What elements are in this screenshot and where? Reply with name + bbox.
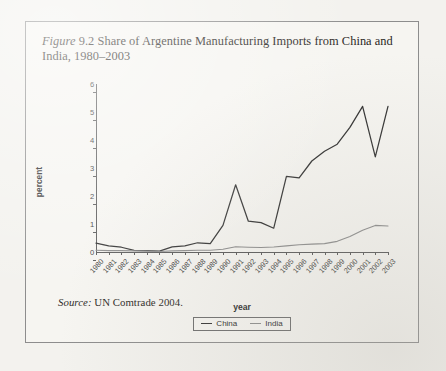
x-tick-mark [299, 252, 300, 255]
source-text: UN Comtrade 2004. [92, 296, 183, 308]
x-tick-mark [198, 252, 199, 255]
x-tick-mark [363, 252, 364, 255]
x-axis [96, 252, 388, 253]
x-tick-mark [286, 252, 287, 255]
scanned-page: Figure 9.2 Share of Argentine Manufactur… [0, 0, 446, 371]
y-axis-title: percent [34, 167, 44, 197]
x-tick-mark [134, 252, 135, 255]
plot-area [96, 84, 388, 252]
x-tick-mark [159, 252, 160, 255]
legend-item-china: China [201, 319, 237, 328]
caption-text: 9.2 Share of Argentine Manufacturing Imp… [42, 34, 393, 63]
series-lines [96, 84, 388, 252]
x-tick-mark [274, 252, 275, 255]
x-tick-mark [325, 252, 326, 255]
chart-legend: China India [96, 317, 388, 331]
legend-label-india: India [265, 319, 282, 328]
x-tick-mark [147, 252, 148, 255]
x-tick-mark [236, 252, 237, 255]
x-tick-mark [248, 252, 249, 255]
x-tick-mark [121, 252, 122, 255]
legend-swatch-india [250, 323, 261, 324]
caption-figure-word: Figure [42, 34, 76, 48]
x-tick-mark [337, 252, 338, 255]
x-tick-mark [109, 252, 110, 255]
x-tick-mark [172, 252, 173, 255]
x-tick-mark [223, 252, 224, 255]
x-tick-mark [388, 252, 389, 255]
x-tick-mark [312, 252, 313, 255]
x-tick-mark [261, 252, 262, 255]
x-tick-label: 2003 [380, 257, 398, 275]
source-label: Source: [58, 296, 92, 308]
series-line-india [96, 225, 388, 251]
source-note: Source: UN Comtrade 2004. [58, 296, 183, 308]
line-chart: percent year China India 0123456198019 [56, 76, 396, 288]
legend-label-china: China [216, 319, 237, 328]
figure-caption: Figure 9.2 Share of Argentine Manufactur… [42, 34, 394, 64]
series-line-china [96, 106, 388, 251]
x-tick-mark [375, 252, 376, 255]
x-tick-mark [350, 252, 351, 255]
x-tick-mark [185, 252, 186, 255]
legend-swatch-china [201, 323, 212, 324]
legend-item-india: India [250, 319, 282, 328]
figure-frame: Figure 9.2 Share of Argentine Manufactur… [25, 21, 419, 343]
x-tick-mark [210, 252, 211, 255]
x-tick-mark [96, 252, 97, 255]
